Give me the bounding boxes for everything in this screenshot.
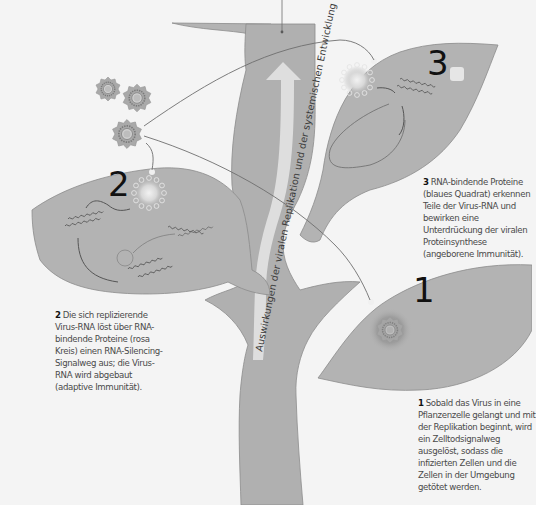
caption-leaf-2: 2Die sich replizierende Virus-RNA löst ü… bbox=[55, 309, 167, 393]
virus-particle-icon bbox=[96, 77, 120, 101]
caption-leaf-1: 1Sobald das Virus in eine Pflanzenzelle … bbox=[418, 397, 536, 493]
virus-particle-icon bbox=[113, 120, 142, 149]
caption-number: 1 bbox=[418, 398, 424, 408]
caption-text: Sobald das Virus in eine Pflanzenzelle g… bbox=[418, 398, 536, 492]
caption-number: 3 bbox=[423, 177, 429, 187]
leaf-2-number: 2 bbox=[108, 164, 130, 204]
caption-leaf-3: 3RNA-bindende Proteine (blaues Quadrat) … bbox=[423, 176, 535, 260]
caption-text: RNA-bindende Proteine (blaues Quadrat) e… bbox=[423, 177, 530, 259]
caption-number: 2 bbox=[55, 310, 61, 320]
virus-particle-icon bbox=[123, 84, 151, 112]
leaf-1-number: 1 bbox=[413, 270, 435, 310]
leaf-3-number: 3 bbox=[427, 43, 449, 83]
caption-text: Die sich replizierende Virus-RNA löst üb… bbox=[55, 310, 163, 392]
protein-square-icon bbox=[450, 67, 464, 81]
